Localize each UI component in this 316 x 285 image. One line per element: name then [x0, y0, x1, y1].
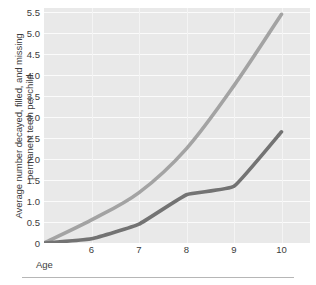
x-axis-tick-label: 9	[231, 244, 236, 255]
y-axis-tick-label: 4.0	[27, 70, 40, 81]
y-axis-tick-label: 0	[35, 238, 40, 249]
y-axis-tick-label: 1.5	[27, 175, 40, 186]
y-axis-tick-label: 2.5	[27, 133, 40, 144]
x-axis-tick-label: 6	[89, 244, 94, 255]
y-axis-tick-label: 2.0	[27, 154, 40, 165]
plot-area	[44, 8, 310, 243]
y-axis-tick-label: 5.5	[27, 7, 40, 18]
x-axis-tick-label: 8	[184, 244, 189, 255]
y-axis-tick-labels: 00.51.01.52.02.53.03.54.04.55.05.5	[0, 0, 44, 250]
bottom-divider	[22, 277, 294, 278]
series-lines	[44, 8, 310, 243]
y-axis-tick-label: 4.5	[27, 49, 40, 60]
y-axis-tick-label: 5.0	[27, 28, 40, 39]
x-axis-tick-label: 7	[136, 244, 141, 255]
y-axis-tick-label: 1.0	[27, 196, 40, 207]
y-axis-tick-label: 3.5	[27, 91, 40, 102]
x-axis-tick-label: 10	[276, 244, 287, 255]
x-axis-tick-labels: 678910	[44, 244, 310, 260]
x-axis-title: Age	[36, 259, 53, 270]
chart-figure: Average number decayed, filled, and miss…	[0, 0, 316, 285]
y-axis-tick-label: 0.5	[27, 217, 40, 228]
y-axis-tick-label: 3.0	[27, 112, 40, 123]
